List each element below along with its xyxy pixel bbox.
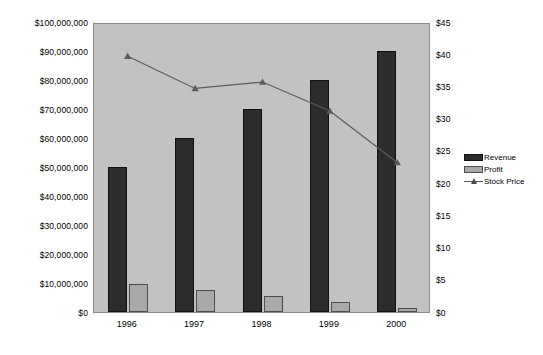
right-axis-tick-label: $0 [436,309,446,318]
stock-price-polyline [128,56,398,162]
legend-swatch-revenue-icon [464,154,483,161]
right-axis-tick-label: $40 [436,51,450,60]
right-axis-tick-label: $30 [436,115,450,124]
right-axis-tick-label: $15 [436,212,450,221]
x-axis-label-1997: 1997 [160,318,227,330]
legend-item-profit[interactable]: Profit [464,164,542,175]
legend-label: Profit [484,165,503,174]
right-axis-tick-label: $5 [436,276,446,285]
x-axis-label-1996: 1996 [93,318,160,330]
right-axis-tick-label: $25 [436,147,450,156]
left-axis-tick-label: $20,000,000 [40,251,88,260]
left-axis-tick-label: $10,000,000 [40,280,88,289]
stock-price-markers [124,53,401,166]
left-axis-tick-label: $30,000,000 [40,222,88,231]
legend-label: Stock Price [484,177,524,186]
stock-price-marker-1996 [124,53,131,59]
right-axis-tick-label: $10 [436,244,450,253]
legend-item-stock-price[interactable]: Stock Price [464,176,542,187]
left-axis-tick-label: $50,000,000 [40,164,88,173]
right-axis-tick-label: $35 [436,83,450,92]
left-axis-tick-label: $60,000,000 [40,135,88,144]
stock-price-marker-1998 [259,78,266,84]
left-axis-tick-label: $100,000,000 [35,19,88,28]
left-axis-tick-label: $80,000,000 [40,77,88,86]
left-axis-tick-label: $40,000,000 [40,193,88,202]
plot-area [93,23,430,313]
left-axis-tick-label: $70,000,000 [40,106,88,115]
x-axis-label-1999: 1999 [295,318,362,330]
x-axis-label-1998: 1998 [228,318,295,330]
legend: RevenueProfitStock Price [464,152,542,188]
x-axis-category-labels: 19961997199819992000 [93,318,430,334]
legend-swatch-line-icon [464,177,483,186]
right-axis-tick-label: $20 [436,180,450,189]
right-axis-tick-label: $45 [436,19,450,28]
chart-container: $0$10,000,000$20,000,000$30,000,000$40,0… [0,0,543,355]
stock-price-line-series [94,24,431,314]
left-axis-tick-label: $90,000,000 [40,48,88,57]
legend-swatch-profit-icon [464,166,483,173]
left-axis-tick-label: $0 [78,309,88,318]
legend-item-revenue[interactable]: Revenue [464,152,542,163]
left-axis: $0$10,000,000$20,000,000$30,000,000$40,0… [0,0,88,355]
legend-label: Revenue [484,153,516,162]
x-axis-label-2000: 2000 [363,318,430,330]
